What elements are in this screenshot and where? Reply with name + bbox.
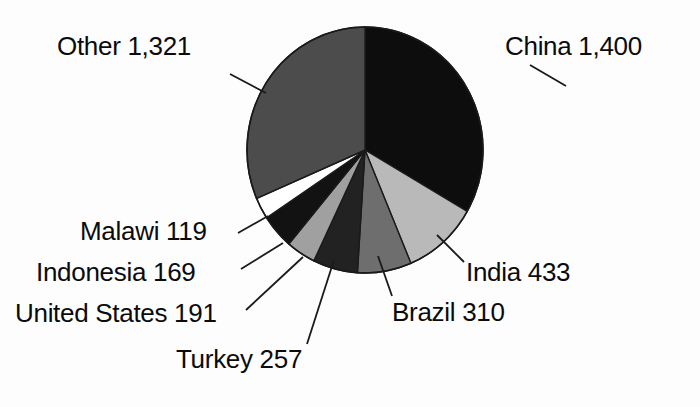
- slice-label-malawi: Malawi 119: [80, 218, 207, 244]
- leader-line-other: [230, 74, 266, 93]
- leader-line-indonesia: [241, 243, 283, 269]
- leader-line-china: [530, 65, 566, 86]
- slice-label-other: Other 1,321: [57, 33, 191, 59]
- leader-line-india: [437, 235, 464, 262]
- leader-line-turkey: [307, 260, 334, 344]
- slice-label-turkey: Turkey 257: [176, 346, 302, 372]
- slice-label-united-states: United States 191: [15, 300, 217, 326]
- slice-label-indonesia: Indonesia 169: [36, 259, 195, 285]
- leader-line-united-states: [246, 257, 303, 310]
- slice-label-china: China 1,400: [505, 33, 642, 59]
- leader-line-malawi: [238, 216, 268, 233]
- slice-label-india: India 433: [466, 259, 570, 285]
- slice-label-brazil: Brazil 310: [392, 299, 505, 325]
- pie-chart-figure: Other 1,321 China 1,400 India 433 Brazil…: [0, 0, 700, 407]
- pie-slice-group: [247, 27, 483, 273]
- pie-chart-graphic: [0, 0, 700, 407]
